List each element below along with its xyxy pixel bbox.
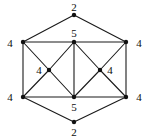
graph-edge <box>49 70 74 97</box>
graph-vertex <box>47 68 51 72</box>
graph-edge <box>74 97 126 122</box>
graph-vertex <box>72 95 76 99</box>
graph-edge <box>74 70 100 97</box>
graph-figure: 2454444542 <box>0 0 150 139</box>
vertex-degree-label: 4 <box>107 65 113 76</box>
graph-vertex <box>124 95 128 99</box>
graph-edge <box>74 15 126 42</box>
vertex-degree-label: 4 <box>7 92 13 103</box>
graph-edge <box>23 15 74 42</box>
graph-vertex <box>72 120 76 124</box>
graph-vertex <box>21 95 25 99</box>
graph-edge <box>49 42 74 70</box>
graph-vertex <box>72 13 76 17</box>
vertex-degree-label: 4 <box>136 38 142 49</box>
vertex-degree-label: 2 <box>71 2 77 13</box>
graph-vertex <box>98 68 102 72</box>
graph-vertex <box>124 40 128 44</box>
vertex-degree-label: 4 <box>7 38 13 49</box>
graph-canvas <box>0 0 150 139</box>
vertex-degree-label: 4 <box>36 65 42 76</box>
graph-vertex <box>21 40 25 44</box>
vertex-degree-label: 4 <box>136 92 142 103</box>
vertex-degree-label: 5 <box>71 102 77 113</box>
graph-vertex <box>72 40 76 44</box>
vertex-degree-label: 2 <box>71 127 77 138</box>
vertex-degree-label: 5 <box>71 28 77 39</box>
graph-edge <box>23 97 74 122</box>
graph-edge <box>74 42 100 70</box>
